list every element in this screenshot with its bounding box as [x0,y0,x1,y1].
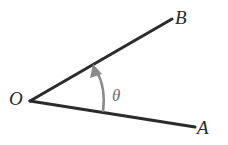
point-label-b: B [175,8,187,27]
vertex-label-o: O [9,89,23,108]
point-label-a: A [197,118,209,137]
ray-ob [30,19,172,101]
angle-figure [0,0,228,145]
angle-diagram: O B A θ [0,0,228,145]
angle-label-theta: θ [112,87,120,104]
angle-arc [97,72,104,112]
